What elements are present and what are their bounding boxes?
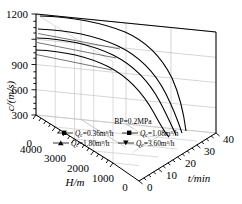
h-tick-1000: 1000 (92, 172, 115, 184)
t-tick-10: 10 (166, 169, 178, 181)
chart-annotation: BP=0.2MPa (114, 117, 152, 126)
h-tick-3000: 3000 (44, 152, 67, 164)
h-tick-0: 0 (122, 181, 128, 193)
chart-figure: 1200 900 600 300 0 c/(m/s) 4000 3000 (0, 0, 242, 204)
c-axis-label: c/(m/s) (4, 80, 17, 111)
h-tick-2000: 2000 (67, 162, 90, 174)
t-tick-30: 30 (204, 145, 216, 157)
c-tick-900: 900 (12, 59, 29, 71)
c-tick-1200: 1200 (6, 8, 29, 20)
t-tick-40: 40 (223, 133, 235, 145)
chart-svg: 1200 900 600 300 0 c/(m/s) 4000 3000 (0, 0, 242, 204)
legend-marker-square2-icon (127, 131, 131, 135)
legend-marker-square-icon (62, 131, 66, 135)
t-tick-0: 0 (147, 181, 153, 193)
t-axis-label: t/min (188, 172, 211, 184)
h-axis-label: H/m (65, 176, 85, 188)
h-tick-4000: 4000 (20, 143, 43, 155)
t-tick-20: 20 (185, 157, 197, 169)
